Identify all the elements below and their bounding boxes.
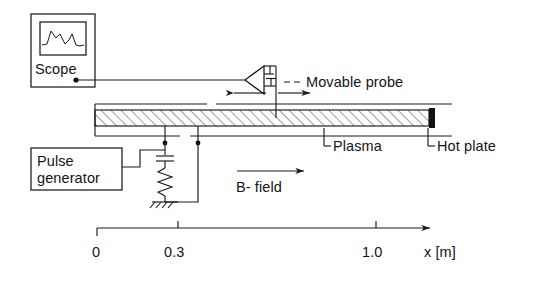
pulse-generator-label-line1: Pulse — [37, 153, 74, 169]
plasma-label: Plasma — [333, 138, 383, 154]
position-axis — [97, 221, 430, 236]
axis-unit-label: x [m] — [424, 244, 456, 260]
pulse-generator-label-line2: generator — [37, 170, 100, 186]
axis-tick-label-0: 0 — [92, 244, 100, 260]
capacitor-icon — [264, 66, 276, 86]
hot-plate-annotation — [428, 128, 435, 146]
scope-screen — [40, 22, 86, 55]
scope-instrument: Scope — [31, 14, 95, 87]
scope-label: Scope — [35, 61, 77, 77]
pulse-generator-instrument: Pulse generator — [31, 148, 122, 190]
ground-icon — [150, 202, 178, 208]
plasma-hatch-fill — [95, 110, 429, 126]
diagram-canvas: Scope — [0, 0, 539, 281]
hot-plate-bar — [429, 108, 435, 128]
circuit-resistor-icon — [158, 168, 172, 196]
hot-plate-label: Hot plate — [437, 138, 496, 154]
electrode-return-wire — [165, 143, 198, 202]
plasma-chamber — [95, 104, 452, 136]
axis-tick-label-1p0: 1.0 — [362, 244, 382, 260]
drive-circuit — [122, 143, 198, 208]
b-field-label: B- field — [236, 179, 282, 195]
probe-amplifier-triangle-icon — [245, 66, 264, 94]
pulse-generator-lead — [122, 150, 165, 167]
circuit-capacitor-icon — [156, 156, 174, 161]
plasma-experiment-diagram: Scope — [0, 0, 539, 281]
plasma-annotation — [324, 128, 331, 146]
axis-tick-label-0p3: 0.3 — [164, 244, 184, 260]
movable-probe-label: Movable probe — [306, 74, 403, 90]
